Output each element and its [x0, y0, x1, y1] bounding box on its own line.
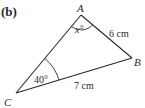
vertex-label-b: B: [134, 56, 141, 68]
vertex-label-c: C: [4, 96, 12, 108]
vertex-label-a: A: [76, 2, 84, 14]
side-label-cb: 7 cm: [74, 80, 94, 91]
angle-label-c: 40°: [34, 74, 48, 85]
part-label: (b): [1, 4, 17, 19]
angle-label-a: x°: [74, 24, 83, 35]
triangle-diagram: (b) A B C x° 40° 6 cm 7 cm: [0, 0, 145, 108]
side-label-ab: 6 cm: [109, 28, 129, 39]
